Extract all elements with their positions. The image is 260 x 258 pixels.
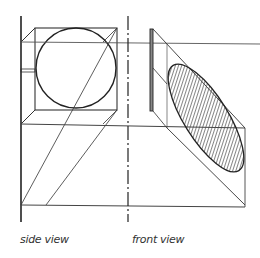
- side-view-drawing: [21, 16, 117, 222]
- front-view-disk-edge: [150, 29, 153, 111]
- side-view-circle: [36, 28, 116, 108]
- front-view-label: front view: [132, 233, 184, 246]
- side-view-label: side view: [20, 233, 69, 246]
- front-view-drawing: [150, 29, 258, 207]
- front-view-hatched-ellipse: [154, 54, 257, 182]
- orthographic-projection-diagram: [0, 0, 260, 258]
- side-view-disk-edge: [21, 69, 35, 72]
